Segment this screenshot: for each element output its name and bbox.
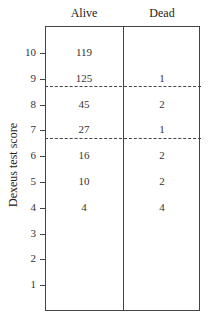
- y-tick-label: 6: [20, 149, 36, 161]
- y-tick-label: 1: [20, 278, 36, 290]
- y-tick-label: 4: [20, 201, 36, 213]
- y-tick-label: 7: [20, 123, 36, 135]
- threshold-line-upper: [45, 86, 201, 87]
- alive-cell: 125: [45, 72, 123, 84]
- dead-cell: 4: [123, 201, 201, 213]
- alive-cell: 4: [45, 201, 123, 213]
- column-header-alive: Alive: [45, 6, 123, 21]
- y-tick-label: 3: [20, 227, 36, 239]
- y-tick: [40, 259, 45, 260]
- dead-cell: 1: [123, 123, 201, 135]
- alive-cell: 119: [45, 46, 123, 58]
- y-tick-label: 5: [20, 175, 36, 187]
- column-divider: [123, 26, 124, 311]
- dead-cell: 2: [123, 149, 201, 161]
- alive-cell: 16: [45, 149, 123, 161]
- dead-cell: 1: [123, 72, 201, 84]
- dead-cell: 2: [123, 98, 201, 110]
- y-tick-label: 9: [20, 72, 36, 84]
- y-axis-label: Dexeus test score: [6, 123, 21, 207]
- y-tick: [40, 234, 45, 235]
- y-tick-label: 8: [20, 98, 36, 110]
- y-tick: [40, 285, 45, 286]
- dead-cell: 2: [123, 175, 201, 187]
- y-tick-label: 10: [20, 46, 36, 58]
- alive-cell: 45: [45, 98, 123, 110]
- column-header-dead: Dead: [123, 6, 201, 21]
- threshold-line-lower: [45, 138, 201, 139]
- y-tick-label: 2: [20, 252, 36, 264]
- alive-cell: 27: [45, 123, 123, 135]
- alive-cell: 10: [45, 175, 123, 187]
